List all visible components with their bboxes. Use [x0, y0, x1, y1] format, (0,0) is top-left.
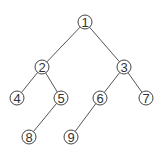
edge-1-2 — [47, 27, 80, 62]
tree-node-7: 7 — [139, 91, 153, 106]
node-label: 2 — [38, 60, 45, 75]
edge-3-7 — [128, 73, 142, 93]
edge-3-6 — [104, 73, 119, 93]
edge-2-4 — [21, 72, 37, 92]
edge-1-3 — [90, 27, 120, 61]
tree-node-4: 4 — [10, 91, 24, 106]
node-label: 4 — [13, 91, 20, 106]
node-label: 8 — [25, 130, 32, 145]
edge-2-5 — [46, 73, 58, 92]
node-label: 6 — [96, 91, 103, 106]
tree-svg: 123456789 — [0, 0, 162, 158]
edges-group — [21, 27, 142, 132]
tree-node-9: 9 — [64, 130, 78, 145]
node-label: 5 — [57, 91, 64, 106]
node-label: 1 — [81, 15, 88, 30]
tree-node-8: 8 — [22, 130, 36, 145]
node-label: 7 — [142, 91, 149, 106]
tree-node-6: 6 — [93, 91, 107, 106]
tree-diagram: 123456789 — [0, 0, 162, 158]
node-label: 9 — [67, 130, 74, 145]
edge-5-8 — [33, 103, 56, 131]
node-label: 3 — [120, 60, 127, 75]
edge-6-9 — [75, 104, 96, 132]
